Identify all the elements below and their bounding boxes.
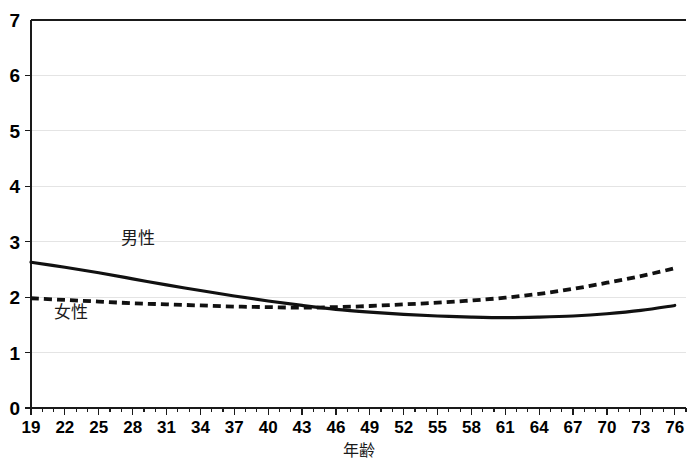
x-tick-label-67: 67 xyxy=(564,418,583,437)
chart-canvas: 01234567 1922252831343740434649525558616… xyxy=(0,0,692,464)
x-tick-label-55: 55 xyxy=(428,418,447,437)
x-tick-label-40: 40 xyxy=(259,418,278,437)
x-tick-label-19: 19 xyxy=(22,418,41,437)
series-label-1: 男性 xyxy=(121,228,155,248)
x-tick-label-76: 76 xyxy=(665,418,684,437)
x-tick-label-28: 28 xyxy=(123,418,142,437)
axis-titles: 年齢 xyxy=(343,441,375,460)
x-tick-label-22: 22 xyxy=(55,418,74,437)
y-tick-label-0: 0 xyxy=(9,398,20,419)
line-chart: 01234567 1922252831343740434649525558616… xyxy=(0,0,692,464)
x-axis-title: 年齢 xyxy=(343,441,375,460)
y-tick-label-1: 1 xyxy=(9,343,20,364)
axes xyxy=(31,20,686,408)
x-tick-label-46: 46 xyxy=(326,418,345,437)
x-tick-label-34: 34 xyxy=(191,418,210,437)
x-tick-label-73: 73 xyxy=(631,418,650,437)
y-tick-label-7: 7 xyxy=(9,10,20,31)
gridlines xyxy=(31,20,686,408)
y-tick-label-4: 4 xyxy=(9,176,20,197)
x-tick-label-64: 64 xyxy=(530,418,549,437)
x-tick-label-58: 58 xyxy=(462,418,481,437)
x-tick-label-52: 52 xyxy=(394,418,413,437)
y-tick-label-6: 6 xyxy=(9,65,20,86)
x-tick-label-61: 61 xyxy=(496,418,515,437)
series-line-2 xyxy=(31,268,675,307)
y-tick-label-5: 5 xyxy=(9,121,20,142)
y-axis-tick-labels: 01234567 xyxy=(9,10,20,419)
series-line-1 xyxy=(31,262,675,317)
y-tick-label-3: 3 xyxy=(9,232,20,253)
x-tick-label-31: 31 xyxy=(157,418,176,437)
x-tick-label-49: 49 xyxy=(360,418,379,437)
x-tick-label-70: 70 xyxy=(597,418,616,437)
y-tick-label-2: 2 xyxy=(9,287,20,308)
series-lines xyxy=(31,262,675,317)
x-tick-label-25: 25 xyxy=(89,418,108,437)
x-axis-tick-labels: 1922252831343740434649525558616467707376 xyxy=(22,418,685,437)
series-label-2: 女性 xyxy=(54,302,88,322)
x-tick-label-37: 37 xyxy=(225,418,244,437)
x-tick-label-43: 43 xyxy=(293,418,312,437)
